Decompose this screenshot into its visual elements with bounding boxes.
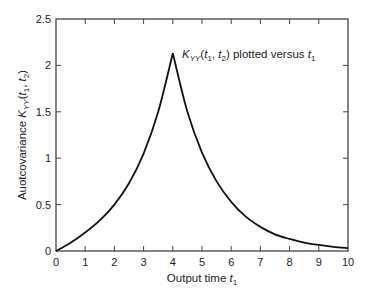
- autocovariance-curve: [56, 53, 348, 251]
- x-tick-label: 4: [170, 256, 176, 268]
- x-tick-label: 10: [342, 256, 354, 268]
- x-tick-label: 0: [53, 256, 59, 268]
- y-tick-label: 1.5: [36, 106, 51, 118]
- x-tick-label: 3: [141, 256, 147, 268]
- y-tick-label: 1: [45, 152, 51, 164]
- curve-annotation: KYY(t1, t2) plotted versus t1: [182, 48, 316, 63]
- y-tick-label: 0.5: [36, 199, 51, 211]
- x-axis-label: Output time t1: [167, 272, 238, 287]
- y-tick-label: 0: [45, 245, 51, 257]
- x-tick-label: 9: [316, 256, 322, 268]
- x-tick-label: 8: [287, 256, 293, 268]
- x-tick-label: 7: [257, 256, 263, 268]
- y-tick-label: 2.5: [36, 13, 51, 25]
- y-tick-label: 2: [45, 59, 51, 71]
- autocovariance-chart: 01234567891000.511.522.5 Output time t1 …: [0, 0, 372, 295]
- x-tick-label: 6: [228, 256, 234, 268]
- curve-layer: [56, 53, 348, 251]
- y-axis-label: Auotcovariance KYY(t1, t2): [16, 70, 31, 200]
- x-tick-label: 2: [111, 256, 117, 268]
- x-tick-label: 5: [199, 256, 205, 268]
- x-tick-label: 1: [82, 256, 88, 268]
